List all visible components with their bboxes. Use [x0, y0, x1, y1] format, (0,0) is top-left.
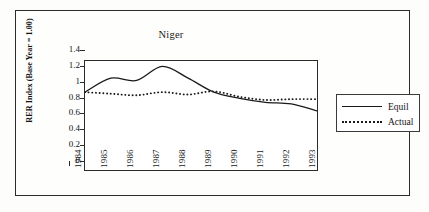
x-tick-mark	[69, 161, 70, 166]
legend-swatch-dotted-line-icon	[342, 117, 382, 127]
x-tick-label: 1988	[177, 149, 187, 168]
y-tick-mark	[80, 50, 85, 51]
y-tick-label: 1.4	[54, 45, 80, 54]
legend-item-equil: Equil	[337, 99, 419, 114]
y-tick-label: 0.4	[54, 124, 80, 133]
x-tick-label: 1986	[125, 149, 135, 168]
y-tick-label: 0.6	[54, 108, 80, 117]
series-line-actual	[85, 91, 317, 100]
figure-canvas: Niger RER Index (Base Year = 1.00) 00.20…	[0, 0, 429, 212]
x-tick-label: 1992	[281, 149, 291, 168]
x-tick-label: 1991	[255, 149, 265, 168]
x-tick-label: 1987	[151, 149, 161, 168]
y-tick-label-group: 00.20.40.60.811.21.4	[52, 11, 80, 212]
figure-outer-frame: Niger RER Index (Base Year = 1.00) 00.20…	[15, 10, 410, 196]
y-tick-label: 1.2	[54, 61, 80, 70]
y-tick-label: 1	[54, 77, 80, 86]
y-axis-title: RER Index (Base Year = 1.00)	[25, 6, 34, 136]
x-tick-label: 1990	[229, 149, 239, 168]
legend-swatch-solid-line-icon	[342, 102, 382, 112]
legend-label-equil: Equil	[388, 102, 409, 112]
y-tick-label: 0.8	[54, 93, 80, 102]
legend: Equil Actual	[336, 94, 420, 132]
x-tick-label: 1984	[73, 149, 83, 168]
series-line-equil	[85, 66, 317, 110]
x-tick-label: 1985	[99, 149, 109, 168]
x-tick-label: 1993	[307, 149, 317, 168]
legend-label-actual: Actual	[388, 117, 413, 127]
legend-item-actual: Actual	[337, 114, 419, 129]
x-tick-label: 1989	[203, 149, 213, 168]
y-tick-label: 0.2	[54, 140, 80, 149]
